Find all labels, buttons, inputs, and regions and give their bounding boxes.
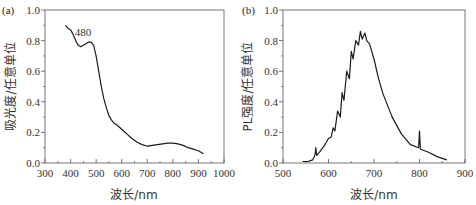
y-tick-label: 0.2 xyxy=(264,126,278,138)
x-axis-label: 波长/nm xyxy=(350,188,397,202)
x-tick-label: 600 xyxy=(113,167,130,179)
data-line xyxy=(303,31,447,161)
y-tick-label: 1.0 xyxy=(264,4,278,16)
chart-panel-a: 30040050060070080090010000.00.20.40.60.8… xyxy=(2,4,236,202)
y-tick-label: 0.4 xyxy=(26,96,40,108)
y-tick-label: 0.6 xyxy=(264,65,278,77)
y-tick-label: 0.0 xyxy=(26,157,40,169)
y-tick-label: 1.0 xyxy=(26,4,40,16)
y-tick-label: 0.8 xyxy=(26,35,40,47)
x-tick-label: 700 xyxy=(366,167,383,179)
y-tick-label: 0.4 xyxy=(264,96,278,108)
y-tick-label: 0.6 xyxy=(26,65,40,77)
data-line xyxy=(66,25,204,154)
y-tick-label: 0.2 xyxy=(26,126,40,138)
x-tick-label: 800 xyxy=(165,167,182,179)
x-tick-label: 1000 xyxy=(213,167,236,179)
y-tick-label: 0.8 xyxy=(264,35,278,47)
chart-panel-b: 5006007008009000.00.20.40.60.81.0(b)波长/n… xyxy=(240,4,474,202)
x-tick-label: 500 xyxy=(88,167,105,179)
chart-figure: 30040050060070080090010000.00.20.40.60.8… xyxy=(0,0,476,205)
x-axis-label: 波长/nm xyxy=(110,188,157,202)
x-tick-label: 400 xyxy=(62,167,79,179)
x-tick-label: 900 xyxy=(190,167,207,179)
y-tick-label: 0.0 xyxy=(264,157,278,169)
x-tick-label: 700 xyxy=(139,167,156,179)
peak-annotation: 480 xyxy=(75,26,92,38)
x-tick-label: 600 xyxy=(320,167,337,179)
x-tick-label: 800 xyxy=(411,167,428,179)
plot-frame xyxy=(283,10,465,163)
panel-label: (a) xyxy=(2,4,15,17)
x-tick-label: 900 xyxy=(457,167,474,179)
panel-label: (b) xyxy=(242,4,255,17)
y-axis-label: 吸光度/任意单位 xyxy=(3,42,18,130)
y-axis-label: PL强度/任意单位 xyxy=(240,42,255,132)
